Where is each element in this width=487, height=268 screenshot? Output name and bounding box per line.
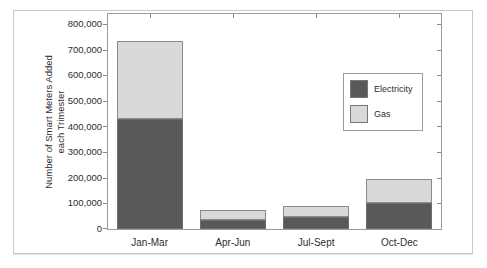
bar-electricity-apr-jun xyxy=(200,220,266,229)
y-tick-label-7: 700,000 xyxy=(44,45,102,55)
y-tick-mark-right xyxy=(437,152,441,153)
x-tick-mark-top xyxy=(233,14,234,18)
y-tick-label-6: 600,000 xyxy=(44,70,102,80)
legend-entry-electricity: Electricity xyxy=(350,80,422,98)
y-tick-mark-right xyxy=(437,24,441,25)
y-tick-mark-right xyxy=(437,178,441,179)
y-tick-mark-right xyxy=(437,75,441,76)
bar-gas-jul-sept xyxy=(283,206,349,218)
x-tick-mark-top xyxy=(316,14,317,18)
legend-label-electricity: Electricity xyxy=(374,84,413,94)
figure: Number of Smart Meters Added each Trimes… xyxy=(0,0,487,268)
y-tick-mark-right xyxy=(437,50,441,51)
y-tick-label-5: 500,000 xyxy=(44,96,102,106)
y-tick-label-3: 300,000 xyxy=(44,147,102,157)
y-tick-mark-left xyxy=(103,101,107,102)
bar-gas-oct-dec xyxy=(366,179,432,203)
x-tick-mark-top xyxy=(150,14,151,18)
y-tick-mark-left xyxy=(103,50,107,51)
x-tick-label-oct-dec: Oct-Dec xyxy=(357,237,441,248)
y-tick-mark-left xyxy=(103,203,107,204)
bar-gas-jan-mar xyxy=(117,41,183,119)
bar-electricity-oct-dec xyxy=(366,203,432,229)
bar-electricity-jul-sept xyxy=(283,217,349,229)
legend-entry-gas: Gas xyxy=(350,105,422,123)
y-tick-mark-left xyxy=(103,75,107,76)
y-tick-mark-left xyxy=(103,126,107,127)
x-tick-label-apr-jun: Apr-Jun xyxy=(191,237,275,248)
legend-swatch-electricity xyxy=(350,80,368,98)
y-tick-mark-right xyxy=(437,126,441,127)
y-tick-mark-left xyxy=(103,152,107,153)
bar-electricity-jan-mar xyxy=(117,119,183,229)
y-tick-mark-left xyxy=(103,228,107,229)
y-tick-mark-right xyxy=(437,203,441,204)
x-tick-mark-top xyxy=(399,14,400,18)
x-tick-label-jan-mar: Jan-Mar xyxy=(108,237,192,248)
y-tick-label-1: 100,000 xyxy=(44,198,102,208)
legend-label-gas: Gas xyxy=(374,109,391,119)
legend: Electricity Gas xyxy=(343,73,423,131)
y-tick-label-2: 200,000 xyxy=(44,173,102,183)
y-tick-mark-right xyxy=(437,101,441,102)
y-tick-mark-left xyxy=(103,24,107,25)
x-tick-label-jul-sept: Jul-Sept xyxy=(274,237,358,248)
plot-area: Electricity Gas xyxy=(107,13,442,230)
bar-gas-apr-jun xyxy=(200,210,266,220)
y-tick-mark-left xyxy=(103,178,107,179)
legend-swatch-gas xyxy=(350,105,368,123)
y-tick-label-4: 400,000 xyxy=(44,122,102,132)
y-tick-label-8: 800,000 xyxy=(44,19,102,29)
y-tick-label-0: 0 xyxy=(44,224,102,234)
